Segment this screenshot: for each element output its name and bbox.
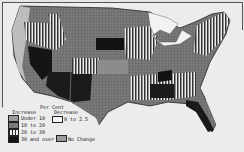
legend-item-0-to-2-5: 0 to 2.5	[64, 116, 88, 122]
region-central-north	[96, 38, 124, 50]
legend-item-20-to-30: 20 to 30	[21, 129, 45, 135]
legend-item-no-change: No Change	[68, 136, 95, 142]
region-deep-south	[150, 84, 174, 98]
region-central	[72, 58, 100, 74]
legend-swatch-10-to-20	[8, 122, 19, 129]
region-south-central	[98, 60, 128, 74]
legend-swatch-decrease	[52, 116, 63, 123]
legend-swatch-20-to-30	[8, 129, 19, 136]
legend-swatch-30-and-over	[8, 136, 19, 143]
region-appalachia	[158, 70, 172, 82]
legend-item-10-to-20: 10 to 20	[21, 122, 45, 128]
legend-decrease-label: Decrease	[54, 109, 78, 115]
legend-item-under-10: Under 10	[21, 115, 45, 121]
legend-item-30-and-over: 30 and over	[21, 136, 54, 142]
legend-swatch-under-10	[8, 115, 19, 122]
legend-swatch-no-change	[56, 135, 67, 142]
